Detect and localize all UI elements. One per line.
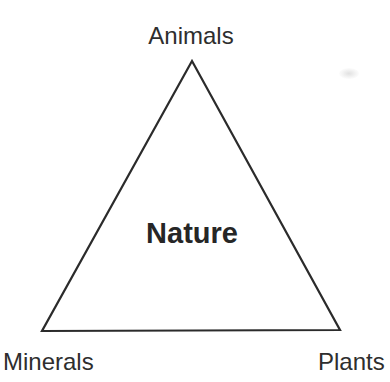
animals-label: Animals	[148, 24, 233, 48]
minerals-label: Minerals	[3, 350, 94, 374]
triangle-shape	[0, 0, 390, 382]
nature-center-label: Nature	[146, 219, 238, 248]
scan-artifact	[339, 68, 359, 79]
triangle-diagram: Animals Nature Minerals Plants	[0, 0, 390, 382]
triangle-outline	[42, 61, 340, 331]
plants-label: Plants	[318, 350, 385, 374]
